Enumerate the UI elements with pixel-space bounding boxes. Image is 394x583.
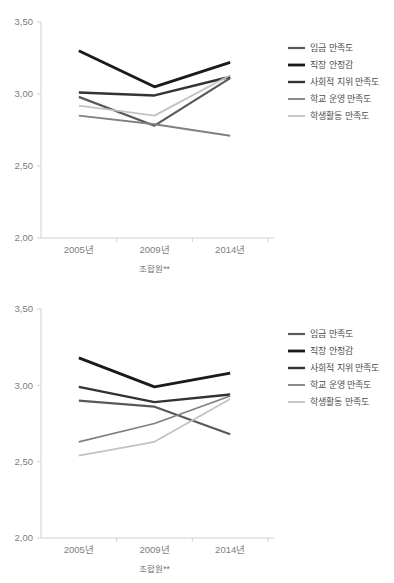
line-chart-bottom: 2,002,503,003,502005년2009년2014년임금 만족도직장 … — [0, 291, 394, 583]
series-line-1 — [79, 401, 230, 435]
line-chart-top: 2,002,503,003,502005년2009년2014년임금 만족도직장 … — [0, 0, 394, 291]
y-tick-label: 2,00 — [15, 532, 34, 543]
legend-label-2: 직장 안정감 — [310, 345, 353, 356]
y-tick-label: 2,50 — [15, 456, 34, 467]
x-tick-label: 2005년 — [64, 544, 94, 555]
x-tick-label: 2014년 — [215, 544, 245, 555]
legend-label-3: 사회적 지위 만족도 — [310, 362, 379, 373]
x-tick-label: 2014년 — [215, 244, 245, 255]
series-line-2 — [79, 358, 230, 387]
legend-label-2: 직장 안정감 — [310, 59, 353, 70]
y-tick-label: 3,00 — [15, 88, 34, 99]
x-axis-title: 조합원** — [139, 264, 170, 274]
x-axis-title: 조합원** — [139, 564, 170, 574]
y-tick-label: 2,50 — [15, 160, 34, 171]
y-tick-label: 3,50 — [15, 16, 34, 27]
plot-area-top: 2,002,503,003,502005년2009년2014년임금 만족도직장 … — [0, 0, 394, 291]
x-tick-label: 2009년 — [139, 244, 169, 255]
x-tick-label: 2009년 — [139, 544, 169, 555]
series-line-3 — [79, 387, 230, 402]
chart-panel-bottom: 2,002,503,003,502005년2009년2014년임금 만족도직장 … — [0, 291, 394, 582]
chart-panel-top: 2,002,503,003,502005년2009년2014년임금 만족도직장 … — [0, 0, 394, 291]
plot-area-bottom: 2,002,503,003,502005년2009년2014년임금 만족도직장 … — [0, 291, 394, 582]
legend-label-5: 학생활동 만족도 — [310, 110, 369, 121]
legend-label-5: 학생활동 만족도 — [310, 396, 369, 407]
legend-label-1: 임금 만족도 — [310, 328, 353, 339]
legend-label-1: 임금 만족도 — [310, 42, 353, 53]
x-tick-label: 2005년 — [64, 244, 94, 255]
legend-label-3: 사회적 지위 만족도 — [310, 76, 379, 87]
y-tick-label: 2,00 — [15, 232, 34, 243]
y-tick-label: 3,00 — [15, 380, 34, 391]
legend-label-4: 학교 운영 만족도 — [310, 94, 371, 104]
y-tick-label: 3,50 — [15, 303, 34, 314]
legend-label-4: 학교 운영 만족도 — [310, 380, 371, 390]
